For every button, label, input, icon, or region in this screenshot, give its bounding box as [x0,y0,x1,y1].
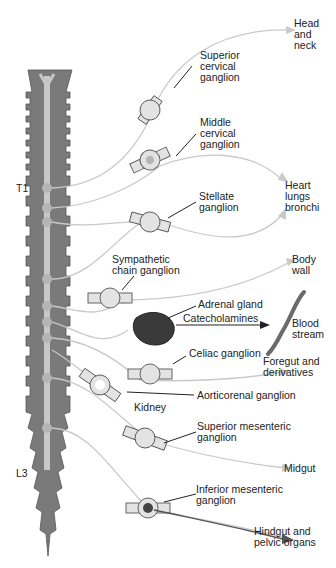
nerve-fibers [52,30,290,538]
label-foregut: Foregut and derivatives [263,356,320,378]
label-superior-cervical: Superior cervical ganglion [200,50,240,83]
label-aorticorenal: Aorticorenal ganglion [197,390,296,401]
label-adrenal: Adrenal gland [198,299,263,310]
label-l3: L3 [16,468,28,479]
diagram-canvas [0,0,336,568]
label-kidney: Kidney [134,402,166,413]
label-superior-mesenteric: Superior mesenteric ganglion [197,421,291,443]
spinal-cord [26,70,72,556]
label-blood-stream: Blood stream [292,318,324,340]
label-inferior-mesenteric: Inferior mesenteric ganglion [196,484,283,506]
label-hindgut: Hindgut and pelvic organs [254,526,316,548]
label-celiac: Celiac ganglion [189,348,261,359]
label-body-wall: Body wall [292,254,316,276]
label-sympathetic-chain: Sympathetic chain ganglion [112,254,180,276]
adrenal-gland [133,312,174,345]
label-t1: T1 [16,183,28,194]
label-heart: Heart lungs bronchi [285,180,319,213]
label-catecholamines: Catecholamines [183,313,258,324]
label-midgut: Midgut [284,463,316,474]
label-middle-cervical: Middle cervical ganglion [200,117,240,150]
label-stellate: Stellate ganglion [199,191,239,213]
label-head-neck: Head and neck [294,18,319,51]
